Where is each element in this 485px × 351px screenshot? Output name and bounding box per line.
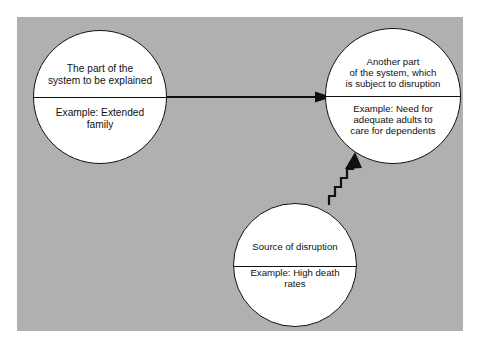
node-target[interactable]: Another part of the system, which is sub… — [325, 28, 461, 164]
node-origin-divider — [34, 97, 166, 98]
node-origin-title: The part of the system to be explained — [34, 63, 166, 87]
node-disruption-example: Example: High death rates — [234, 267, 356, 290]
node-disruption[interactable]: Source of disruption Example: High death… — [233, 203, 357, 327]
node-target-divider — [326, 96, 460, 97]
node-disruption-divider — [234, 266, 356, 267]
node-target-title: Another part of the system, which is sub… — [326, 56, 460, 90]
node-target-example: Example: Need for adequate adults to car… — [326, 103, 460, 137]
diagram-canvas: The part of the system to be explained E… — [0, 0, 485, 351]
node-disruption-title: Source of disruption — [234, 241, 356, 252]
node-origin[interactable]: The part of the system to be explained E… — [33, 30, 167, 164]
node-origin-example: Example: Extended family — [34, 107, 166, 131]
